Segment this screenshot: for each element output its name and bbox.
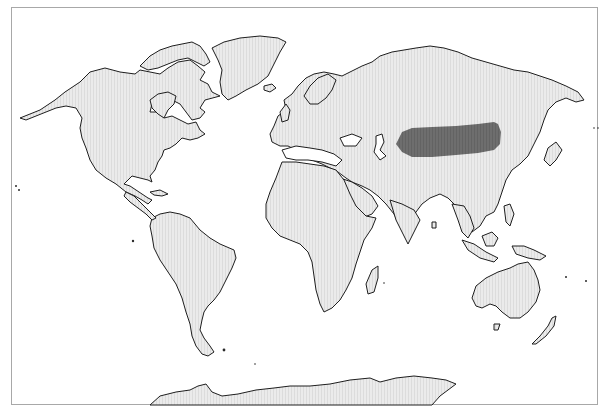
island-speck: [132, 240, 134, 242]
island-speck: [593, 127, 595, 129]
island-speck: [15, 185, 17, 187]
greenland: [212, 36, 286, 100]
japan: [544, 142, 562, 166]
borneo: [482, 232, 498, 246]
new-zealand: [532, 316, 556, 344]
tasmania: [494, 324, 500, 330]
island-speck: [18, 189, 20, 191]
south-america: [150, 212, 236, 356]
madagascar: [366, 266, 378, 294]
sri-lanka: [432, 222, 436, 228]
antarctica: [150, 376, 456, 405]
cuba: [150, 190, 168, 196]
australia: [472, 262, 540, 318]
island-speck: [223, 349, 226, 352]
island-speck: [254, 363, 256, 365]
new-guinea: [512, 246, 546, 260]
philippines: [504, 204, 514, 226]
island-speck: [565, 276, 567, 278]
world-map: [0, 0, 607, 413]
island-speck: [383, 282, 385, 284]
island-speck: [585, 280, 587, 282]
iceland: [264, 84, 276, 92]
north-america: [20, 60, 220, 204]
island-speck: [597, 127, 599, 129]
